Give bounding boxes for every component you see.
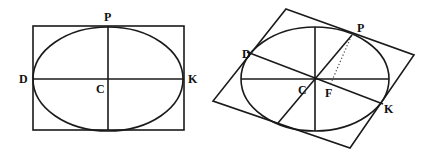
left-label-p: P [104,10,111,24]
diagram-canvas: P D K C P D K C F [0,0,434,158]
left-label-d: D [19,72,28,86]
figure-left: P D K C [19,10,198,131]
right-label-d: D [242,47,251,61]
right-perpendicular-pf [331,39,350,83]
right-label-f: F [325,86,332,100]
right-label-p: P [357,21,364,35]
right-label-k: K [384,102,394,116]
right-label-c: C [298,83,307,97]
left-label-k: K [188,72,198,86]
figure-right: P D K C F [213,9,414,148]
left-label-c: C [96,82,105,96]
